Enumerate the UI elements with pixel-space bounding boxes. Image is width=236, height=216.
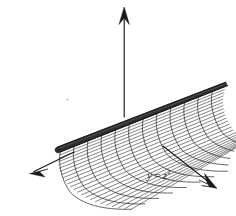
equation-equals: = <box>152 169 163 181</box>
equation-exponent: 2 <box>167 168 171 176</box>
left-axis <box>30 152 74 177</box>
paper-speck <box>66 98 68 100</box>
parabolic-cylinder-diagram <box>0 0 236 216</box>
figure-canvas: y=z2 <box>0 0 236 216</box>
mesh-rulings-group <box>59 86 236 209</box>
surface-equation-label: y=z2 <box>147 168 171 181</box>
vertical-axis <box>119 7 129 117</box>
